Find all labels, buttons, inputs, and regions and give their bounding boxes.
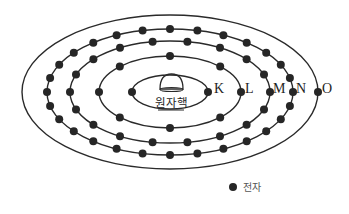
electron-icon <box>66 88 74 96</box>
electron-icon <box>277 61 285 69</box>
electron-icon <box>55 115 63 123</box>
electron-icon <box>193 149 201 157</box>
electron-icon <box>70 127 78 135</box>
electron-icon <box>72 71 80 79</box>
electron-icon <box>139 149 147 157</box>
shell-label-m: M <box>273 81 286 96</box>
electron-icon <box>262 49 270 57</box>
shell-label-l: L <box>245 81 254 96</box>
electron-icon <box>204 88 212 96</box>
electron-icon <box>116 63 124 71</box>
electron-icon <box>166 25 174 33</box>
electron-icon <box>237 88 245 96</box>
electron-icon <box>243 137 251 145</box>
electron-icon <box>193 27 201 35</box>
electron-icon <box>216 114 224 122</box>
electron-icon <box>72 105 80 113</box>
electron-icon <box>260 105 268 113</box>
electron-icon <box>46 102 54 110</box>
electron-icon <box>89 121 97 129</box>
electron-icon <box>216 132 224 140</box>
electron-icon <box>89 55 97 63</box>
nucleus: 원자핵 <box>155 74 188 110</box>
electron-icon <box>286 74 294 82</box>
electron-icon <box>139 27 147 35</box>
electron-icon <box>219 31 227 39</box>
electron-icon <box>70 49 78 57</box>
electron-icon <box>113 31 121 39</box>
electron-icon <box>95 88 103 96</box>
electron-icon <box>116 114 124 122</box>
shell-label-n: N <box>296 81 306 96</box>
electron-icon <box>216 63 224 71</box>
electron-icon <box>43 88 51 96</box>
legend: 전자 <box>229 179 261 194</box>
legend-label: 전자 <box>243 179 261 194</box>
electron-icon <box>262 127 270 135</box>
atom-shell-diagram: 원자핵 KLMNO <box>0 0 349 214</box>
shell-label-o: O <box>322 81 332 96</box>
electron-icon <box>243 55 251 63</box>
nucleus-label: 원자핵 <box>155 96 188 110</box>
electron-icon <box>314 88 322 96</box>
electron-icon <box>183 138 191 146</box>
electron-icon <box>55 61 63 69</box>
electron-dot-icon <box>229 183 237 191</box>
electron-icon <box>116 44 124 52</box>
electron-icon <box>46 74 54 82</box>
electron-icon <box>260 71 268 79</box>
electron-icon <box>286 102 294 110</box>
electron-icon <box>116 132 124 140</box>
electron-icon <box>183 38 191 46</box>
electron-icon <box>243 39 251 47</box>
electron-icon <box>89 39 97 47</box>
electron-icon <box>219 145 227 153</box>
electron-icon <box>149 38 157 46</box>
electron-icon <box>128 88 136 96</box>
electron-icon <box>166 124 174 132</box>
electron-icon <box>216 44 224 52</box>
electron-icon <box>166 151 174 159</box>
electron-icon <box>149 138 157 146</box>
nucleus-dome-icon <box>160 74 183 89</box>
electron-icon <box>113 145 121 153</box>
electron-icon <box>166 52 174 60</box>
electron-icon <box>277 115 285 123</box>
electron-icon <box>89 137 97 145</box>
electron-icon <box>243 121 251 129</box>
shell-label-k: K <box>214 81 224 96</box>
